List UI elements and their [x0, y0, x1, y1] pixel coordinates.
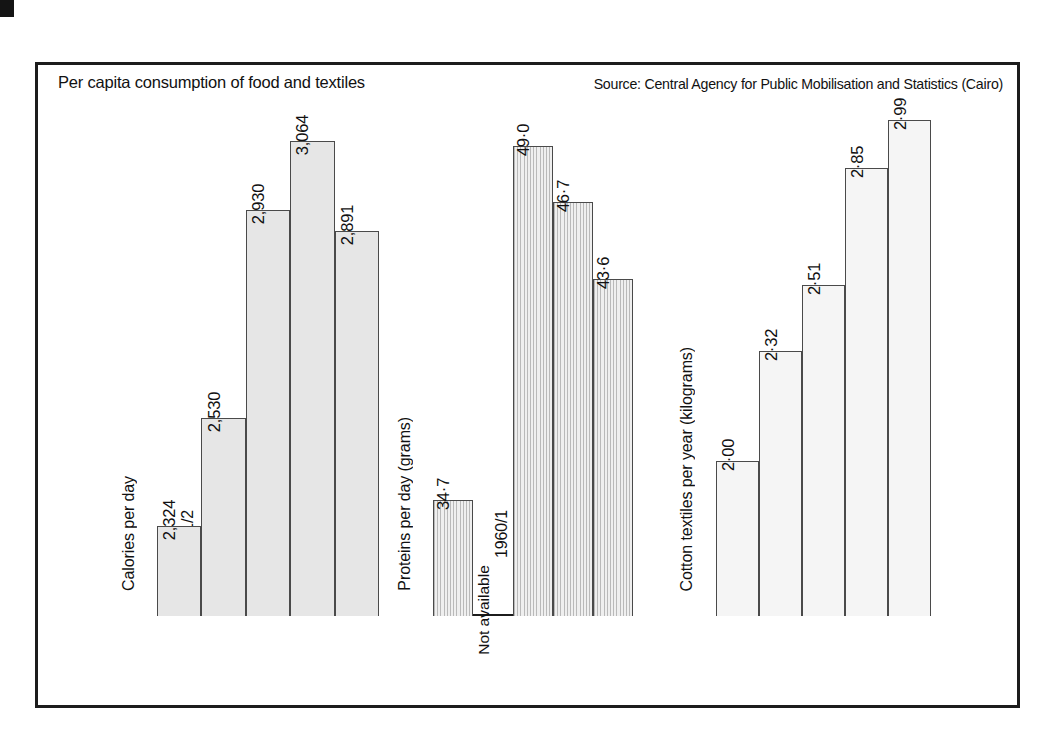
not-available-label-proteins: Not available [475, 565, 493, 655]
plot-area-textiles: 1951/21960/11963/41966/71968/9 2·002·322… [716, 96, 931, 616]
chart-panel-textiles: Cotton textiles per year (kilograms) 195… [628, 65, 958, 711]
bar-value-proteins-0: 34·7 [434, 478, 453, 510]
bar-slot-calories-2: 2,930 [246, 96, 290, 616]
bar-slot-calories-3: 3,064 [290, 96, 334, 616]
bar-value-calories-3: 3,064 [293, 115, 312, 155]
bar-calories-1960-1 [201, 418, 245, 616]
bar-slot-proteins-2: 49·0 [513, 96, 553, 616]
bar-proteins-1968-9 [593, 279, 633, 616]
axis-label-textiles: Cotton textiles per year (kilograms) [678, 347, 696, 592]
bar-slot-proteins-3: 46·7 [553, 96, 593, 616]
bar-value-textiles-4: 2·99 [891, 98, 910, 130]
bar-value-calories-0: 2,324 [160, 499, 179, 539]
page-corner-mark [0, 0, 14, 17]
chart-panel-calories: Calories per day 1951/21960/11963/41966/… [60, 65, 375, 711]
bar-value-proteins-4: 43·6 [594, 257, 613, 289]
axis-label-proteins: Proteins per day (grams) [396, 417, 414, 591]
bar-slot-calories-1: 2,530 [201, 96, 245, 616]
bar-slot-proteins-0: 34·7 [433, 96, 473, 616]
bar-slot-textiles-1: 2·32 [759, 96, 802, 616]
bar-textiles-1951-2 [716, 461, 759, 616]
bar-slot-proteins-1: Not available [473, 96, 513, 616]
axis-label-calories: Calories per day [120, 476, 138, 591]
bar-proteins-1963-4 [513, 146, 553, 616]
bar-slot-proteins-4: 43·6 [593, 96, 633, 616]
bar-textiles-1960-1 [759, 351, 802, 616]
bar-textiles-1963-4 [802, 285, 845, 616]
bar-value-textiles-2: 2·51 [805, 263, 824, 295]
bar-value-textiles-1: 2·32 [762, 329, 781, 361]
bar-value-proteins-2: 49·0 [514, 123, 533, 155]
bar-calories-1963-4 [246, 210, 290, 616]
chart-panel-proteins: Proteins per day (grams) 1951/21960/1196… [348, 65, 638, 711]
plot-area-proteins: 1951/21960/11963/41966/71968/9 34·7Not a… [433, 96, 633, 616]
figure-frame: Per capita consumption of food and texti… [35, 62, 1020, 708]
bar-value-calories-2: 2,930 [249, 184, 268, 224]
bar-textiles-1966-7 [845, 168, 888, 616]
bar-value-calories-1: 2,530 [205, 392, 224, 432]
bar-textiles-1968-9 [888, 120, 931, 616]
bar-proteins-1966-7 [553, 202, 593, 616]
bar-value-textiles-3: 2·85 [848, 146, 867, 178]
bar-value-proteins-3: 46·7 [554, 180, 573, 212]
bar-slot-textiles-0: 2·00 [716, 96, 759, 616]
bar-slot-textiles-2: 2·51 [802, 96, 845, 616]
bar-slot-textiles-3: 2·85 [845, 96, 888, 616]
bar-proteins-1951-2 [433, 500, 473, 616]
plot-area-calories: 1951/21960/11963/41966/71968/9 2,3242,53… [157, 96, 379, 616]
bar-calories-1966-7 [290, 141, 334, 616]
bar-slot-textiles-4: 2·99 [888, 96, 931, 616]
bar-value-textiles-0: 2·00 [719, 439, 738, 471]
bar-slot-calories-0: 2,324 [157, 96, 201, 616]
